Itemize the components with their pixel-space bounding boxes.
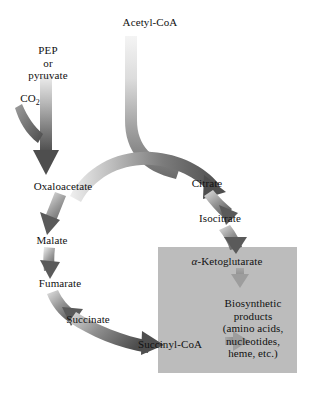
node-label-biosynthetic-products: Biosynthetic products (amino acids, nucl… [207, 297, 299, 360]
pep-line-2: or [28, 57, 67, 70]
node-label-isocitrate: Isocitrate [199, 212, 241, 225]
ketoglutarate-text: -Ketoglutarate [197, 255, 262, 267]
node-label-co2: CO2 [20, 92, 40, 110]
node-label-malate: Malate [36, 234, 67, 247]
biosynth-line-1: Biosynthetic [207, 297, 299, 310]
arrow-oxaloacetate-to-malate [40, 192, 66, 235]
node-label-oxaloacetate: Oxaloacetate [34, 180, 93, 193]
arrow-pep-to-oxaloacetate [33, 76, 59, 175]
node-label-fumarate: Fumarate [39, 277, 81, 290]
arrow-isocitrate-to-ketoglutarate [219, 225, 247, 254]
biosynth-line-4: nucleotides, [207, 335, 299, 348]
arrow-co2-to-oxaloacetate [15, 104, 43, 143]
co2-text: CO [20, 92, 35, 104]
node-label-citrate: Citrate [192, 177, 223, 190]
pep-line-1: PEP [28, 44, 67, 57]
node-label-succinate: Succinate [66, 313, 110, 326]
arrow-malate-to-fumarate [40, 247, 60, 279]
node-label-pep: PEP or pyruvate [28, 44, 67, 82]
pathway-diagram: PEP or pyruvate CO2 Acetyl-CoA Oxaloacet… [0, 0, 312, 393]
node-label-succinyl-coa: Succinyl-CoA [138, 338, 202, 351]
biosynth-line-5: heme, etc.) [207, 347, 299, 360]
arrow-ketoglutarate-to-biosynthetic [231, 268, 249, 288]
node-label-alpha-ketoglutarate: α-Ketoglutarate [192, 255, 263, 268]
co2-subscript: 2 [36, 98, 40, 107]
pep-line-3: pyruvate [28, 69, 67, 82]
biosynth-line-3: (amino acids, [207, 322, 299, 335]
node-label-acetyl-coa: Acetyl-CoA [123, 16, 178, 29]
biosynth-line-2: products [207, 310, 299, 323]
